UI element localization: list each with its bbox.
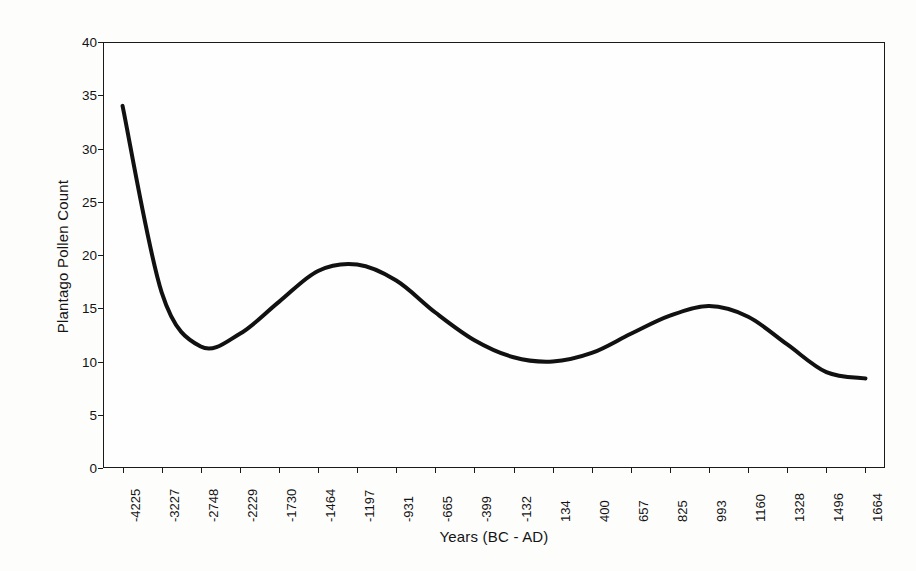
x-axis-tick-label: -2748 bbox=[206, 489, 221, 522]
y-axis-tick-mark bbox=[98, 95, 103, 96]
y-axis-tick-label: 40 bbox=[63, 35, 97, 50]
x-axis-tick-mark bbox=[162, 468, 163, 473]
x-axis-tick-mark bbox=[670, 468, 671, 473]
x-axis-tick-mark bbox=[787, 468, 788, 473]
y-axis-tick-mark bbox=[98, 149, 103, 150]
y-axis-tick-mark bbox=[98, 42, 103, 43]
x-axis-tick-label: -1730 bbox=[284, 489, 299, 522]
x-axis-tick-label: 993 bbox=[714, 500, 729, 522]
y-axis-tick-label: 15 bbox=[63, 301, 97, 316]
x-axis-tick-label: 1496 bbox=[831, 493, 846, 522]
x-axis-tick-label: -132 bbox=[519, 496, 534, 522]
x-axis-tick-label: 1664 bbox=[870, 493, 885, 522]
x-axis-tick-mark bbox=[240, 468, 241, 473]
y-axis-tick-mark bbox=[98, 255, 103, 256]
y-axis-tick-mark bbox=[98, 362, 103, 363]
y-axis-tick-label: 10 bbox=[63, 354, 97, 369]
y-axis-tick-labels: 0510152025303540 bbox=[63, 42, 97, 468]
x-axis-tick-marks bbox=[103, 468, 885, 476]
plot-area bbox=[103, 42, 885, 468]
x-axis-tick-label: 1328 bbox=[792, 493, 807, 522]
x-axis-tick-mark bbox=[123, 468, 124, 473]
x-axis-tick-mark bbox=[357, 468, 358, 473]
x-axis-tick-mark bbox=[396, 468, 397, 473]
x-axis-tick-label: -4225 bbox=[128, 489, 143, 522]
x-axis-tick-label: 825 bbox=[675, 500, 690, 522]
x-axis-title: Years (BC - AD) bbox=[103, 528, 885, 545]
x-axis-tick-mark bbox=[318, 468, 319, 473]
x-axis-tick-mark bbox=[279, 468, 280, 473]
x-axis-tick-label: -665 bbox=[440, 496, 455, 522]
x-axis-tick-labels: -4225-3227-2748-2229-1730-1464-1197-931-… bbox=[103, 476, 885, 536]
curve-svg bbox=[103, 42, 885, 468]
x-axis-tick-mark bbox=[748, 468, 749, 473]
x-axis-tick-mark bbox=[631, 468, 632, 473]
pollen-count-chart: Plantago Pollen Count 0510152025303540 -… bbox=[0, 0, 916, 571]
x-axis-tick-mark bbox=[435, 468, 436, 473]
y-axis-tick-label: 20 bbox=[63, 248, 97, 263]
y-axis-tick-mark bbox=[98, 308, 103, 309]
x-axis-tick-mark bbox=[553, 468, 554, 473]
x-axis-tick-mark bbox=[826, 468, 827, 473]
x-axis-tick-label: -1197 bbox=[362, 490, 377, 522]
y-axis-tick-label: 25 bbox=[63, 194, 97, 209]
y-axis-tick-label: 5 bbox=[63, 407, 97, 422]
y-axis-tick-mark bbox=[98, 202, 103, 203]
x-axis-tick-label: -1464 bbox=[323, 489, 338, 522]
x-axis-tick-label: 400 bbox=[597, 500, 612, 522]
x-axis-tick-mark bbox=[474, 468, 475, 473]
x-axis-tick-mark bbox=[201, 468, 202, 473]
x-axis-tick-label: 134 bbox=[558, 500, 573, 522]
x-axis-tick-label: -931 bbox=[401, 496, 416, 522]
x-axis-tick-label: -2229 bbox=[245, 489, 260, 522]
y-axis-tick-label: 30 bbox=[63, 141, 97, 156]
data-series-line bbox=[123, 106, 866, 379]
x-axis-tick-label: -3227 bbox=[167, 489, 182, 522]
y-axis-tick-label: 35 bbox=[63, 88, 97, 103]
x-axis-tick-label: 1160 bbox=[753, 494, 768, 522]
y-axis-tick-mark bbox=[98, 415, 103, 416]
x-axis-tick-mark bbox=[865, 468, 866, 473]
y-axis-tick-marks bbox=[103, 42, 111, 468]
x-axis-tick-mark bbox=[709, 468, 710, 473]
x-axis-tick-label: 657 bbox=[636, 500, 651, 522]
y-axis-tick-label: 0 bbox=[63, 461, 97, 476]
x-axis-tick-mark bbox=[592, 468, 593, 473]
x-axis-tick-mark bbox=[514, 468, 515, 473]
x-axis-tick-label: -399 bbox=[479, 496, 494, 522]
